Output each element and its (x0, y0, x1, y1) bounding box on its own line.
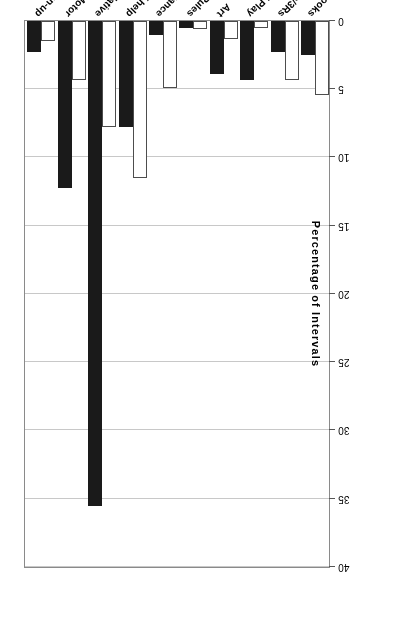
bar-filled (58, 21, 72, 188)
y-axis-tick (329, 20, 335, 21)
y-axis-tick-label: 15 (338, 221, 364, 231)
bar-filled (210, 21, 224, 74)
bar-open (254, 21, 268, 28)
bar-group (55, 21, 85, 567)
bar-group (147, 21, 177, 567)
chart-figure: 0510152025303540Percentage of Intervals … (0, 0, 417, 635)
y-axis-tick (329, 293, 335, 294)
y-axis-tick (329, 157, 335, 158)
y-axis-tick (329, 566, 335, 567)
bar-open (102, 21, 116, 127)
bar-group (207, 21, 237, 567)
bar-filled (119, 21, 133, 127)
bar-group (177, 21, 207, 567)
y-axis-tick-label: 10 (338, 153, 364, 163)
bar-filled (88, 21, 102, 506)
bar-open (72, 21, 86, 80)
bar-open (285, 21, 299, 80)
bar-filled (271, 21, 285, 52)
category-label: Art (215, 1, 233, 19)
y-axis-tick-label: 35 (338, 494, 364, 504)
y-axis-tick (329, 498, 335, 499)
bar-group (238, 21, 268, 567)
bar-filled (301, 21, 315, 55)
y-axis-tick (329, 88, 335, 89)
y-axis-tick-label: 25 (338, 357, 364, 367)
bar-open (193, 21, 207, 29)
bar-open (41, 21, 55, 41)
y-axis-tick-label: 40 (338, 562, 364, 572)
bar-filled (240, 21, 254, 80)
y-axis-tick-label: 5 (338, 84, 364, 94)
bar-series-container (25, 21, 329, 567)
bar-group (25, 21, 55, 567)
bar-open (224, 21, 238, 39)
y-axis-tick (329, 361, 335, 362)
plot-area: 0510152025303540Percentage of Intervals (24, 20, 330, 568)
bar-open (163, 21, 177, 88)
bar-group (86, 21, 116, 567)
bar-group (116, 21, 146, 567)
bar-filled (27, 21, 41, 52)
y-axis-tick-label: 20 (338, 289, 364, 299)
y-axis-tick-label: 30 (338, 426, 364, 436)
y-axis-tick-label: 0 (338, 16, 364, 26)
bar-group (268, 21, 298, 567)
bar-open (315, 21, 329, 95)
bar-open (133, 21, 147, 178)
y-axis-title: Percentage of Intervals (310, 221, 322, 367)
bar-filled (149, 21, 163, 35)
category-label: Books (306, 0, 335, 19)
bar-filled (179, 21, 193, 28)
y-axis-tick (329, 225, 335, 226)
y-axis-tick (329, 430, 335, 431)
